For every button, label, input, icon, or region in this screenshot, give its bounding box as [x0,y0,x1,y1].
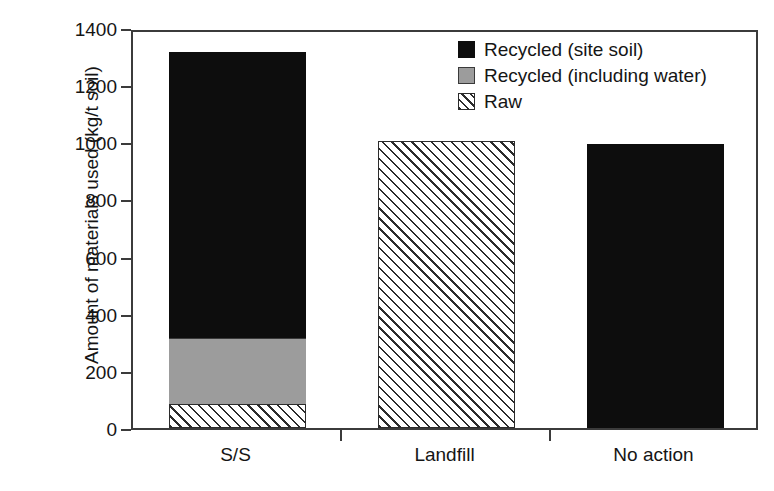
plot-area: Recycled (site soil) Recycled (including… [131,30,758,430]
x-tick-mark [340,430,342,441]
x-axis-labels: S/SLandfillNo action [131,444,758,478]
bar-segment-raw [169,404,306,428]
gray-square-icon [458,67,475,84]
bar-no-action [587,144,724,428]
bar-segment-raw [378,141,515,428]
y-tick-mark [121,258,131,260]
y-tick-mark [121,429,131,431]
y-tick-mark [121,29,131,31]
legend-item-raw: Raw [458,88,748,114]
y-tick-label: 400 [85,305,117,327]
legend-label: Recycled (including water) [484,66,707,85]
hatched-square-icon [458,93,475,110]
x-tick-mark [549,430,551,441]
y-tick-label: 1200 [75,76,117,98]
x-axis-ticks [131,430,758,442]
bar-chart-figure: Amount of materials used (kg/t soil) 020… [0,0,774,491]
legend-label: Raw [484,92,522,111]
y-tick-label: 800 [85,190,117,212]
x-tick-label: Landfill [414,444,474,466]
black-square-icon [458,41,475,58]
legend-label: Recycled (site soil) [484,40,643,59]
legend-item-recycled-including-water: Recycled (including water) [458,62,748,88]
bar-segment-recycled-including-water- [169,338,306,404]
y-tick-mark [121,372,131,374]
y-tick-label: 200 [85,362,117,384]
x-tick-label: S/S [220,444,251,466]
y-tick-label: 1400 [75,19,117,41]
legend-item-recycled-site-soil: Recycled (site soil) [458,36,748,62]
y-axis-labels: 0200400600800100012001400 [0,30,131,430]
y-tick-label: 600 [85,248,117,270]
y-tick-mark [121,143,131,145]
chart-legend: Recycled (site soil) Recycled (including… [458,36,748,114]
y-tick-mark [121,315,131,317]
y-tick-label: 1000 [75,133,117,155]
bar-s-s [169,52,306,428]
bar-segment-recycled-site-soil- [587,144,724,428]
x-tick-label: No action [613,444,693,466]
bar-segment-recycled-site-soil- [169,52,306,338]
y-tick-mark [121,86,131,88]
bar-landfill [378,141,515,428]
y-tick-label: 0 [106,419,117,441]
y-tick-mark [121,200,131,202]
